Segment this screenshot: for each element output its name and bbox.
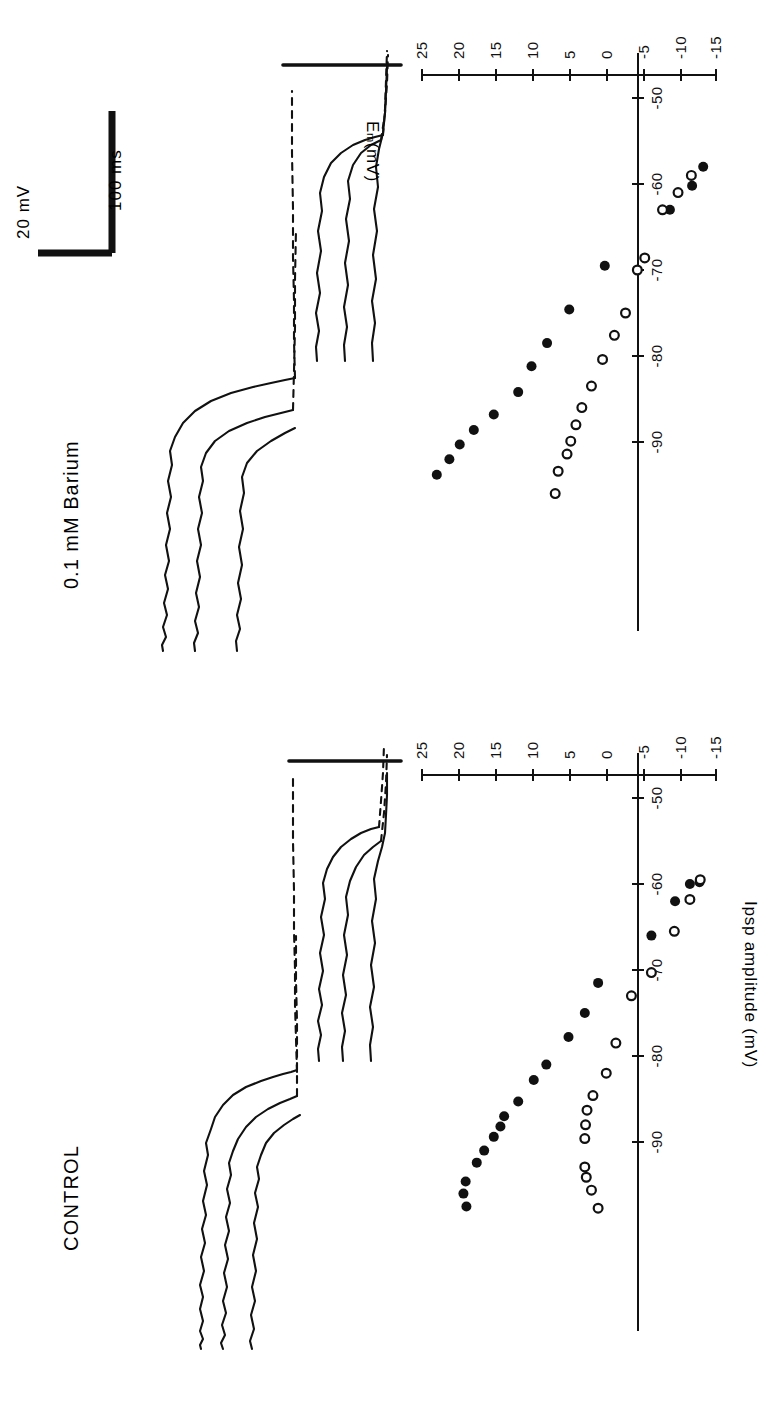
data-point-filled	[542, 338, 552, 348]
x-tick-labels: -50 -60 -70 -80 -90	[648, 86, 665, 453]
y-tick-label: 15	[487, 41, 504, 59]
data-point-filled	[479, 1146, 489, 1156]
data-point-filled	[489, 409, 499, 419]
data-point-filled	[580, 1008, 590, 1018]
data-point-open	[627, 991, 636, 1000]
x-tick-label: -80	[648, 1044, 665, 1067]
data-point-filled	[513, 1097, 523, 1107]
y-tick-label: -15	[707, 36, 724, 59]
data-point-open	[640, 254, 649, 263]
voltage-traces-control	[105, 721, 405, 1361]
rotated-figure-canvas: CONTROL	[0, 0, 769, 1401]
trace-svg-control	[105, 721, 405, 1361]
voltage-traces-barium	[105, 21, 405, 661]
data-point-filled	[600, 261, 610, 271]
data-point-filled	[685, 879, 695, 889]
x-tick-label: -50	[648, 786, 665, 809]
panel-title-control: CONTROL	[60, 1145, 83, 1251]
data-point-open	[580, 1163, 589, 1172]
x-axis-label-sub: m	[365, 133, 377, 143]
y-tick-label: 10	[524, 741, 541, 759]
data-point-filled	[499, 1111, 509, 1121]
data-point-filled	[489, 1132, 499, 1142]
trace-svg-barium	[105, 21, 405, 661]
data-point-open	[647, 968, 656, 977]
data-point-open	[696, 875, 705, 884]
data-point-filled	[687, 181, 697, 191]
data-point-open	[602, 1069, 611, 1078]
y-axis-label-control: Ipsp amplitude (mV)	[740, 901, 760, 1068]
data-point-open	[685, 895, 694, 904]
data-series-open-control	[580, 875, 704, 1212]
data-point-filled	[564, 305, 574, 315]
y-tick-label: -5	[635, 745, 652, 759]
data-point-open	[589, 1091, 598, 1100]
x-tick-label: -60	[648, 172, 665, 195]
y-tick-labels: 25 20 15 10 5 0 -5 -10 -15	[413, 36, 724, 59]
y-tick-label: -10	[672, 36, 689, 59]
data-point-filled	[670, 896, 680, 906]
data-point-filled	[513, 387, 523, 397]
data-point-filled	[461, 1177, 471, 1187]
data-point-open	[580, 1134, 589, 1143]
data-series-filled-control	[458, 877, 704, 1211]
y-tick-label: -5	[635, 45, 652, 59]
data-point-open	[687, 171, 696, 180]
data-point-filled	[444, 454, 454, 464]
data-point-filled	[593, 978, 603, 988]
data-point-open	[554, 467, 563, 476]
y-tick-label: 0	[598, 50, 615, 59]
data-point-filled	[564, 1032, 574, 1042]
amplitude-plot-barium: -50 -60 -70 -80 -90	[400, 21, 750, 671]
data-point-open	[583, 1106, 592, 1115]
data-point-filled	[469, 425, 479, 435]
data-point-open	[633, 266, 642, 275]
data-point-open	[587, 1186, 596, 1195]
plot-svg-barium: -50 -60 -70 -80 -90	[400, 21, 750, 671]
data-point-open	[670, 927, 679, 936]
data-point-open	[658, 205, 667, 214]
x-tick-label: -90	[648, 1130, 665, 1153]
data-point-filled	[458, 1189, 468, 1199]
y-tick-label: 15	[487, 741, 504, 759]
scale-bar-time-label: 100 ms	[106, 149, 126, 211]
scale-bar-voltage-label: 20 mV	[14, 185, 34, 239]
data-point-open	[572, 420, 581, 429]
plot-svg-control: -50 -60 -70 -80 -90	[400, 721, 750, 1371]
y-tick-label: 25	[413, 741, 430, 759]
data-point-open	[598, 355, 607, 364]
x-axis-label-unit: (mV)	[363, 143, 382, 182]
data-point-filled	[646, 931, 656, 941]
data-point-filled	[455, 440, 465, 450]
panel-control: CONTROL	[0, 701, 769, 1401]
data-point-filled	[541, 1060, 551, 1070]
data-point-open	[551, 489, 560, 498]
data-point-open	[674, 188, 683, 197]
x-axis-label-barium: Em(mV)	[362, 121, 382, 182]
y-tick-label: 5	[561, 50, 578, 59]
data-point-open	[611, 1039, 620, 1048]
data-point-open	[581, 1120, 590, 1129]
data-point-filled	[527, 361, 537, 371]
y-tick-label: 20	[450, 41, 467, 59]
data-point-open	[594, 1204, 603, 1213]
scale-bar-group: 20 mV 100 ms	[20, 71, 130, 271]
data-point-open	[587, 382, 596, 391]
data-series-open-barium	[551, 171, 696, 498]
x-tick-label: -60	[648, 872, 665, 895]
data-point-open	[566, 437, 575, 446]
x-axis-label-main: E	[363, 121, 382, 133]
data-point-filled	[432, 470, 442, 480]
y-tick-label: 5	[561, 750, 578, 759]
data-point-open	[577, 403, 586, 412]
data-point-open	[582, 1173, 591, 1182]
panel-title-barium: 0.1 mM Barium	[60, 440, 83, 589]
data-point-open	[563, 450, 572, 459]
y-tick-label: -10	[672, 736, 689, 759]
y-tick-label: 20	[450, 741, 467, 759]
y-tick-label: 0	[598, 750, 615, 759]
panel-barium: 0.1 mM Barium	[0, 1, 769, 701]
y-tick-labels: 25 20 15 10 5 0 -5 -10 -15	[413, 736, 724, 759]
data-point-filled	[472, 1158, 482, 1168]
y-tick-label: 10	[524, 41, 541, 59]
